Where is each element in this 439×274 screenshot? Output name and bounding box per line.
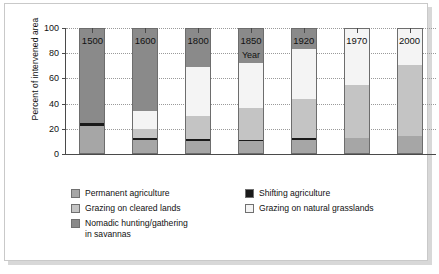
legend-label: Permanent agriculture: [85, 188, 170, 199]
bar-segment: [185, 141, 211, 154]
legend-swatch-icon: [245, 204, 254, 213]
bar-segment: [344, 138, 370, 154]
bar-segment: [238, 140, 264, 142]
bar-segment: [185, 139, 211, 142]
y-tick-label: 80: [49, 49, 59, 58]
bar-segment: [79, 126, 105, 154]
x-axis-title: Year: [66, 50, 436, 60]
bar-segment: [397, 136, 423, 154]
legend-item[interactable]: Shifting agriculture: [245, 188, 330, 199]
legend-item[interactable]: Nomadic hunting/gathering in savannas: [71, 218, 188, 240]
legend-swatch-icon: [245, 189, 254, 198]
x-tick-mark: [410, 28, 411, 33]
y-tick-mark: [62, 129, 66, 130]
bar-1500: [79, 28, 105, 154]
legend-swatch-icon: [71, 189, 80, 198]
bar-1850: [238, 28, 264, 154]
x-tick-label: 1500: [82, 35, 103, 46]
y-tick-label: 20: [49, 124, 59, 133]
bar-1970: [344, 28, 370, 154]
bar-segment: [185, 67, 211, 116]
bar-segment: [132, 138, 158, 141]
bar-segment: [397, 65, 423, 137]
plot-area: 020406080100 150016001800185019201970200…: [65, 28, 436, 155]
bar-segment: [238, 63, 264, 108]
bar-2000: [397, 28, 423, 154]
legend-swatch-icon: [71, 204, 80, 213]
legend-swatch-icon: [71, 219, 80, 228]
legend-row: Permanent agricultureShifting agricultur…: [71, 188, 421, 203]
legend-item[interactable]: Grazing on natural grasslands: [245, 203, 374, 214]
x-tick-mark: [304, 28, 305, 33]
x-tick-label: 2000: [399, 35, 420, 46]
x-tick-mark: [251, 28, 252, 33]
bar-segment: [291, 140, 317, 154]
bar-segment: [238, 141, 264, 154]
y-tick-mark: [62, 28, 66, 29]
figure-frame: Percent of intervened area 020406080100 …: [4, 3, 428, 261]
legend-label: Nomadic hunting/gathering in savannas: [85, 218, 188, 240]
x-tick-label: 1920: [293, 35, 314, 46]
bar-segment: [132, 129, 158, 138]
x-tick-mark: [145, 28, 146, 33]
legend-item[interactable]: Grazing on cleared lands: [71, 203, 181, 214]
y-tick-mark: [62, 154, 66, 155]
y-tick-label: 60: [49, 74, 59, 83]
chart-legend: Permanent agricultureShifting agricultur…: [71, 188, 421, 233]
bar-segment: [132, 111, 158, 129]
x-tick-label: 1600: [135, 35, 156, 46]
bar-1800: [185, 28, 211, 154]
legend-label: Grazing on cleared lands: [85, 203, 181, 214]
bar-1920: [291, 28, 317, 154]
figure-container: Percent of intervened area 020406080100 …: [0, 0, 439, 274]
x-tick-mark: [357, 28, 358, 33]
bar-segment: [238, 108, 264, 140]
y-axis-title: Percent of intervened area: [30, 0, 40, 139]
bar-segment: [79, 123, 105, 127]
x-tick-mark: [92, 28, 93, 33]
bar-segment: [185, 116, 211, 139]
y-tick-mark: [62, 104, 66, 105]
legend-row: Grazing on cleared landsGrazing on natur…: [71, 203, 421, 218]
y-tick-mark: [62, 78, 66, 79]
y-tick-label: 100: [44, 24, 59, 33]
bar-segment: [291, 138, 317, 141]
y-tick-label: 40: [49, 99, 59, 108]
bar-segment: [185, 28, 211, 67]
x-tick-label: 1800: [188, 35, 209, 46]
x-tick-label: 1850: [240, 35, 261, 46]
bar-segment: [291, 99, 317, 138]
bar-segment: [132, 140, 158, 154]
legend-item[interactable]: Permanent agriculture: [71, 188, 170, 199]
legend-label: Grazing on natural grasslands: [259, 203, 374, 214]
x-tick-label: 1970: [346, 35, 367, 46]
x-tick-mark: [198, 28, 199, 33]
legend-label: Shifting agriculture: [259, 188, 330, 199]
y-tick-label: 0: [54, 150, 59, 159]
bar-1600: [132, 28, 158, 154]
legend-row: Nomadic hunting/gathering in savannas: [71, 218, 421, 233]
bar-segment: [344, 85, 370, 138]
